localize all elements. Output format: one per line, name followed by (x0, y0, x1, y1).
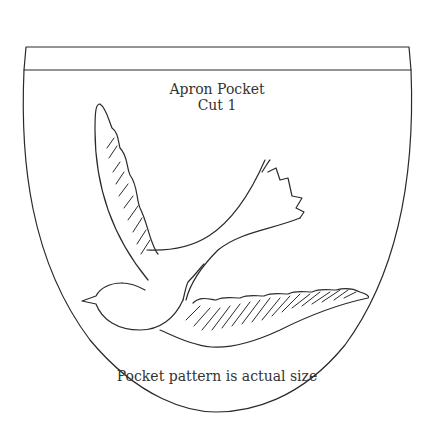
bird-illustration (82, 104, 369, 347)
pattern-sheet: Apron Pocket Cut 1 Pocket pattern is act… (0, 0, 434, 437)
size-note: Pocket pattern is actual size (0, 368, 434, 384)
wing-hatching (107, 138, 356, 330)
cut-instruction: Cut 1 (0, 97, 434, 113)
pattern-title: Apron Pocket (0, 81, 434, 97)
